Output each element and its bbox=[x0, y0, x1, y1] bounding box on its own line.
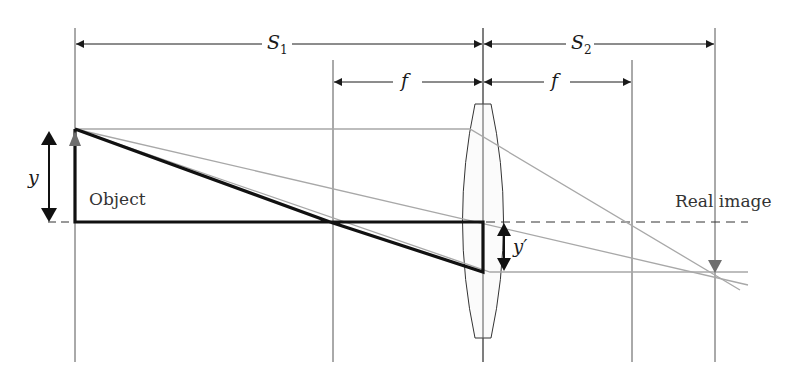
f-right-label: f bbox=[551, 71, 558, 90]
s2-symbol: S bbox=[571, 31, 584, 53]
light-rays bbox=[75, 129, 748, 290]
lens-diagram: S1 S2 f f y y′ Object Real image bbox=[0, 0, 791, 382]
object-arrowhead bbox=[69, 131, 81, 146]
s2-subscript: 2 bbox=[584, 43, 592, 57]
object-height-arrow bbox=[41, 131, 57, 222]
s1-subscript: 1 bbox=[280, 43, 288, 57]
s1-label: S1 bbox=[267, 33, 288, 56]
guide-lines bbox=[75, 28, 715, 362]
real-image-arrowhead bbox=[708, 260, 722, 273]
object-height-label: y bbox=[28, 168, 39, 187]
f-left-label: f bbox=[401, 71, 408, 90]
s2-label: S2 bbox=[571, 33, 592, 56]
s1-symbol: S bbox=[267, 31, 280, 53]
real-image-label: Real image bbox=[675, 193, 771, 210]
image-height-label: y′ bbox=[513, 238, 527, 256]
object-label: Object bbox=[89, 191, 146, 208]
